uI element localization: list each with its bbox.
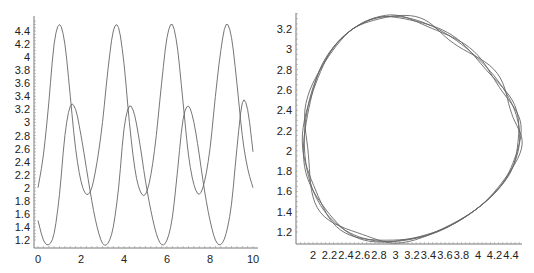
y-tick-label: 2.6 (15, 143, 30, 155)
line-series-1 (38, 25, 253, 196)
chart-canvas: 1.21.41.61.822.22.42.62.833.23.43.63.844… (0, 0, 534, 273)
x-tick-label: 8 (207, 253, 213, 265)
y-tick-label: 3 (286, 43, 292, 55)
y-tick-label: 3 (24, 116, 30, 128)
x-tick-label: 2.2 (322, 249, 337, 261)
phase-loop-trace (305, 15, 522, 243)
x-tick-label: 4 (475, 249, 481, 261)
time-series-chart: 1.21.41.61.822.22.42.62.833.23.43.63.844… (15, 16, 259, 265)
x-tick-label: 3.2 (404, 249, 419, 261)
y-tick-label: 1.4 (15, 221, 30, 233)
y-tick-label: 2.2 (15, 169, 30, 181)
y-tick-label: 2.4 (277, 104, 292, 116)
y-tick-label: 3.2 (15, 103, 30, 115)
x-tick-label: 3.4 (421, 249, 436, 261)
x-tick-label: 0 (35, 253, 41, 265)
y-tick-label: 3.6 (15, 77, 30, 89)
phase-portrait-chart: 1.21.41.61.822.22.42.62.833.222.22.42.62… (277, 13, 522, 261)
x-tick-label: 6 (164, 253, 170, 265)
phase-loop-trace (302, 15, 521, 240)
x-tick-label: 3.8 (454, 249, 469, 261)
x-tick-label: 3.6 (437, 249, 452, 261)
x-tick-label: 2.8 (371, 249, 386, 261)
y-tick-label: 1.4 (277, 206, 292, 218)
y-tick-label: 2.8 (277, 64, 292, 76)
y-tick-label: 2.8 (15, 130, 30, 142)
line-series-2 (38, 100, 253, 245)
y-tick-label: 3.4 (15, 90, 30, 102)
y-tick-label: 3.8 (15, 64, 30, 76)
y-tick-label: 1.6 (277, 185, 292, 197)
y-tick-label: 2 (286, 145, 292, 157)
phase-loop-trace (304, 16, 519, 241)
x-tick-label: 4.4 (503, 249, 518, 261)
x-tick-label: 10 (247, 253, 259, 265)
x-tick-label: 2 (78, 253, 84, 265)
y-tick-label: 1.8 (15, 195, 30, 207)
y-tick-label: 3.2 (277, 23, 292, 35)
y-tick-label: 4.4 (15, 25, 30, 37)
y-tick-label: 2.6 (277, 84, 292, 96)
y-tick-label: 2 (24, 182, 30, 194)
y-tick-label: 4.2 (15, 38, 30, 50)
y-tick-label: 1.2 (277, 226, 292, 238)
y-tick-label: 4 (24, 51, 30, 63)
x-tick-label: 2.6 (355, 249, 370, 261)
x-tick-label: 2.4 (338, 249, 353, 261)
y-tick-label: 1.8 (277, 165, 292, 177)
y-tick-label: 2.4 (15, 156, 30, 168)
phase-loop-trace (303, 17, 519, 243)
x-tick-label: 2 (310, 249, 316, 261)
y-tick-label: 2.2 (277, 125, 292, 137)
y-tick-label: 1.6 (15, 208, 30, 220)
x-tick-label: 3 (392, 249, 398, 261)
y-tick-label: 1.2 (15, 234, 30, 246)
x-tick-label: 4.2 (487, 249, 502, 261)
x-tick-label: 4 (121, 253, 127, 265)
